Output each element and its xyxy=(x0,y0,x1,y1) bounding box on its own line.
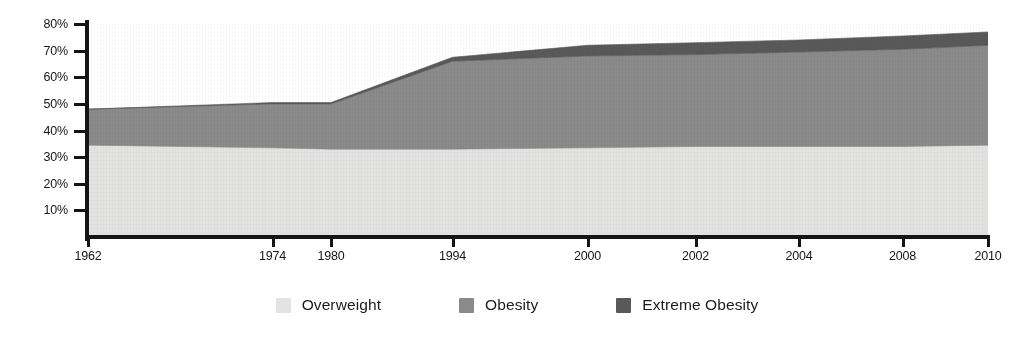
area-series-overweight xyxy=(88,145,988,237)
x-tick-mark xyxy=(987,239,990,247)
legend-label: Obesity xyxy=(485,296,538,314)
x-tick-label: 2000 xyxy=(574,249,601,263)
x-tick-mark xyxy=(272,239,275,247)
plot-area xyxy=(88,24,988,237)
chart-legend: OverweightObesityExtreme Obesity xyxy=(0,296,1034,314)
legend-item[interactable]: Overweight xyxy=(276,296,381,314)
y-tick-label: 20% xyxy=(22,177,68,191)
x-tick-mark xyxy=(87,239,90,247)
y-tick-label: 10% xyxy=(22,203,68,217)
y-axis-labels: 10%20%30%40%50%60%70%80% xyxy=(18,0,68,345)
x-tick-label: 1962 xyxy=(74,249,101,263)
x-tick-mark xyxy=(452,239,455,247)
x-tick-mark xyxy=(330,239,333,247)
x-tick-mark xyxy=(798,239,801,247)
legend-item[interactable]: Obesity xyxy=(459,296,538,314)
x-tick-label: 1994 xyxy=(439,249,466,263)
legend-label: Extreme Obesity xyxy=(642,296,758,314)
x-tick-label: 1980 xyxy=(317,249,344,263)
x-tick-mark xyxy=(902,239,905,247)
y-tick-label: 80% xyxy=(22,17,68,31)
legend-swatch-obesity xyxy=(459,298,474,313)
area-series-group xyxy=(88,24,988,237)
legend-swatch-extreme-obesity xyxy=(616,298,631,313)
legend-swatch-overweight xyxy=(276,298,291,313)
x-tick-label: 2008 xyxy=(889,249,916,263)
y-tick-label: 40% xyxy=(22,124,68,138)
x-tick-mark xyxy=(695,239,698,247)
x-tick-mark xyxy=(587,239,590,247)
stacked-area-chart: 10%20%30%40%50%60%70%80% 196219741980199… xyxy=(0,0,1034,345)
area-series-obesity xyxy=(88,45,988,149)
y-tick-label: 70% xyxy=(22,44,68,58)
y-tick-label: 30% xyxy=(22,150,68,164)
legend-label: Overweight xyxy=(302,296,381,314)
x-tick-label: 2002 xyxy=(682,249,709,263)
x-tick-label: 2010 xyxy=(974,249,1001,263)
x-tick-label: 1974 xyxy=(259,249,286,263)
legend-item[interactable]: Extreme Obesity xyxy=(616,296,758,314)
y-tick-label: 50% xyxy=(22,97,68,111)
x-axis-line xyxy=(85,235,990,239)
y-axis-line xyxy=(85,20,89,241)
y-tick-label: 60% xyxy=(22,70,68,84)
x-tick-label: 2004 xyxy=(785,249,812,263)
